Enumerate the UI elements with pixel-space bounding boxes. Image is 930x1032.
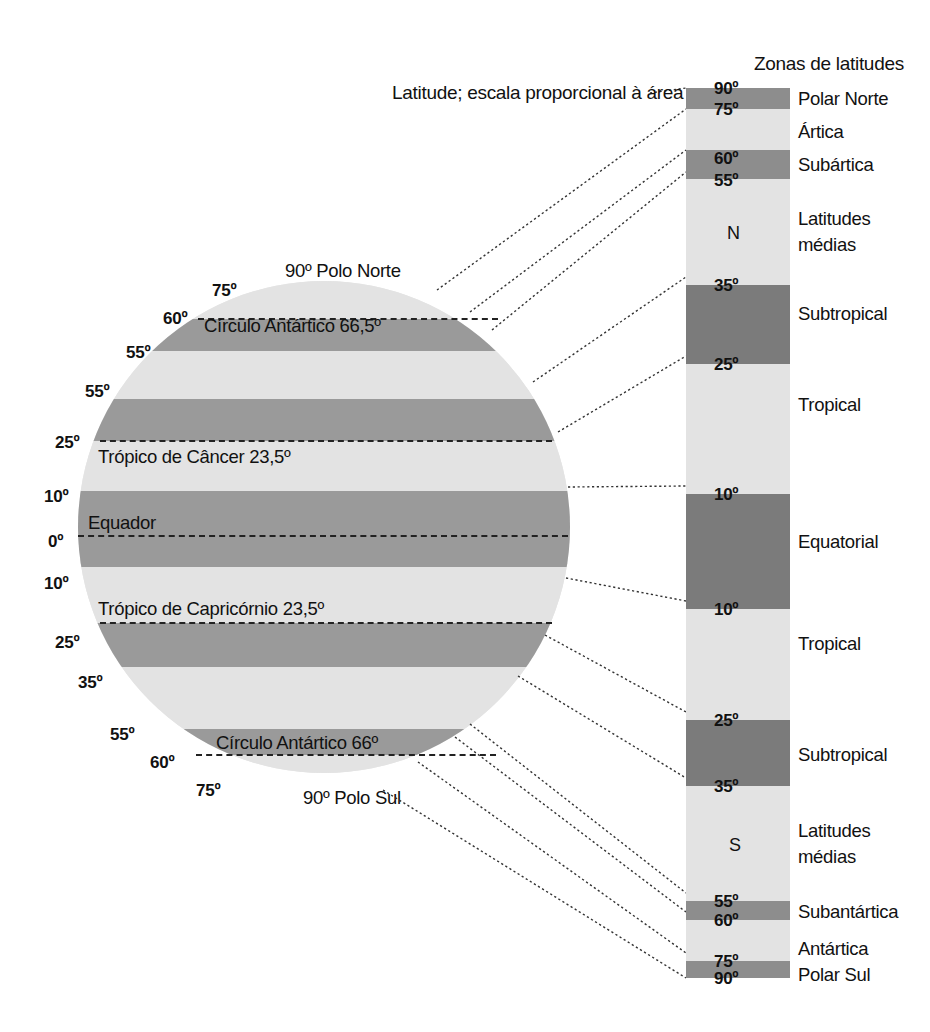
globe-label-north-pole: 90º Polo Norte bbox=[285, 262, 401, 281]
globe-degree-tick: 60º bbox=[150, 754, 175, 771]
zone-name-latitudes-n-l1: Latitudes bbox=[798, 210, 870, 229]
globe-degree-tick: 60º bbox=[163, 310, 188, 327]
globe-degree-tick: 75º bbox=[196, 782, 221, 799]
zone-name-tropical-n: Tropical bbox=[798, 396, 861, 415]
globe-label-south-pole: 90º Polo Sul bbox=[303, 789, 401, 808]
globe-band-midlat-s bbox=[78, 667, 570, 729]
bar-degree-tick: 25º bbox=[714, 356, 738, 373]
zone-name-tropical-s: Tropical bbox=[798, 635, 861, 654]
dashed-line-equator bbox=[78, 535, 568, 537]
zone-name-latitudes-s-l1: Latitudes bbox=[798, 822, 870, 841]
zone-name-latitudes-s-l2: médias bbox=[798, 848, 856, 867]
globe-degree-tick: 75º bbox=[212, 282, 237, 299]
bar-degree-tick: 10º bbox=[714, 601, 738, 618]
globe-degree-tick: 25º bbox=[55, 634, 80, 651]
bar-degree-tick: 10º bbox=[714, 486, 738, 503]
bar-degree-tick: 75º bbox=[714, 101, 738, 118]
zone-name-polar-sul: Polar Sul bbox=[798, 966, 870, 985]
globe-band-midlat-n bbox=[78, 351, 570, 399]
zone-bar-title: Zonas de latitudes bbox=[754, 54, 904, 73]
hemisphere-marker-south: S bbox=[729, 836, 741, 854]
dashed-line-antarctic-circle bbox=[196, 754, 496, 756]
bar-degree-tick: 55º bbox=[714, 893, 738, 910]
zone-name-antartica: Antártica bbox=[798, 940, 868, 959]
globe-label-tropic-of-capricorn: Trópico de Capricórnio 23,5º bbox=[98, 600, 324, 619]
zone-name-subartica: Subártica bbox=[798, 156, 873, 175]
bar-degree-tick: 75º bbox=[714, 953, 738, 970]
dashed-line-tropic-cancer bbox=[100, 440, 552, 442]
bar-degree-tick: 60º bbox=[714, 150, 738, 167]
zone-band-tropical-n bbox=[686, 364, 790, 494]
hemisphere-marker-north: N bbox=[727, 224, 740, 242]
bar-degree-tick: 35º bbox=[714, 277, 738, 294]
globe-degree-tick: 0º bbox=[48, 533, 63, 550]
globe-label-arctic-circle: Círculo Antártico 66,5º bbox=[204, 317, 381, 336]
zone-name-latitudes-n-l2: médias bbox=[798, 236, 856, 255]
diagram-caption: Latitude; escala proporcional à área bbox=[392, 83, 683, 102]
globe-degree-tick: 10º bbox=[44, 575, 69, 592]
globe-label-antarctic-circle: Círculo Antártico 66º bbox=[216, 734, 378, 753]
dashed-line-tropic-capricorn bbox=[100, 622, 552, 624]
zone-name-subtropical-n: Subtropical bbox=[798, 305, 887, 324]
zone-name-artica: Ártica bbox=[798, 123, 844, 142]
bar-degree-tick: 55º bbox=[714, 172, 738, 189]
zone-band-equatorial bbox=[686, 494, 790, 609]
zone-band-subtropical-n bbox=[686, 285, 790, 364]
globe-degree-tick: 10º bbox=[44, 488, 69, 505]
globe-label-tropic-of-cancer: Trópico de Câncer 23,5º bbox=[98, 448, 291, 467]
bar-degree-tick: 90º bbox=[714, 80, 738, 97]
zone-name-polar-norte: Polar Norte bbox=[798, 90, 888, 109]
globe-degree-tick: 55º bbox=[110, 726, 135, 743]
bar-degree-tick: 25º bbox=[714, 712, 738, 729]
globe-degree-tick: 35º bbox=[78, 674, 103, 691]
zone-band-subtropical-s bbox=[686, 720, 790, 786]
globe-band-subtropical-n bbox=[78, 399, 570, 441]
globe-band-polar-north bbox=[78, 281, 570, 319]
bar-degree-tick: 90º bbox=[714, 970, 738, 987]
zone-name-subtropical-s: Subtropical bbox=[798, 746, 887, 765]
zone-name-subantartica: Subantártica bbox=[798, 903, 898, 922]
zone-name-equatorial: Equatorial bbox=[798, 533, 878, 552]
bar-degree-tick: 60º bbox=[714, 912, 738, 929]
globe-degree-tick: 55º bbox=[85, 383, 110, 400]
globe-label-equator: Equador bbox=[88, 514, 156, 533]
globe-degree-tick: 55º bbox=[126, 344, 151, 361]
bar-degree-tick: 35º bbox=[714, 778, 738, 795]
zone-band-tropical-s bbox=[686, 609, 790, 720]
globe-band-subtropical-s bbox=[78, 623, 570, 667]
globe-degree-tick: 25º bbox=[55, 434, 80, 451]
latitude-zones-diagram: Círculo Antártico 66,5º Trópico de Cânce… bbox=[0, 0, 930, 1032]
